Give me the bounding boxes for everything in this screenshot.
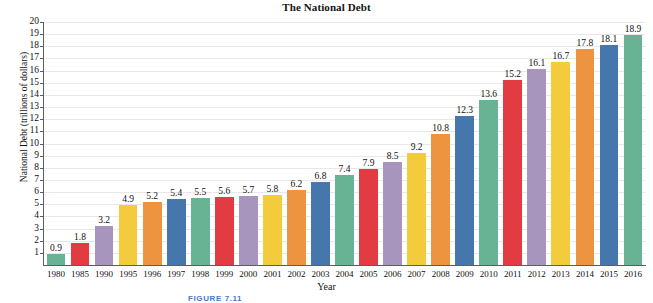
y-tick-label: 13 [9, 102, 39, 111]
x-axis-line [43, 265, 646, 266]
bar[interactable] [551, 62, 570, 265]
bar[interactable] [624, 35, 643, 265]
bar-slot: 17.82014 [573, 22, 597, 265]
bar-slot: 5.82001 [260, 22, 284, 265]
bar-slot: 18.12015 [597, 22, 621, 265]
y-tick-label: 8 [9, 163, 39, 172]
y-tick-label: 17 [9, 53, 39, 62]
bar-slot: 12.32009 [453, 22, 477, 265]
bar-slot: 5.61999 [212, 22, 236, 265]
y-tick-label: 1 [9, 248, 39, 257]
y-tick-label: 15 [9, 78, 39, 87]
y-tick-label: 6 [9, 187, 39, 196]
y-tick-label: 7 [9, 175, 39, 184]
x-tick-label: 2016 [615, 269, 651, 279]
bar[interactable] [287, 190, 306, 265]
bar-slot: 0.91980 [44, 22, 68, 265]
chart-title: The National Debt [0, 1, 653, 13]
bar-slot: 7.42004 [332, 22, 356, 265]
y-tick-label: 19 [9, 29, 39, 38]
bar[interactable] [479, 100, 498, 265]
bar[interactable] [527, 69, 546, 265]
bar-slot: 5.51998 [188, 22, 212, 265]
y-tick-label: 11 [9, 126, 39, 135]
bar[interactable] [119, 205, 138, 265]
bar-slot: 7.92005 [357, 22, 381, 265]
bar[interactable] [576, 49, 595, 265]
bar[interactable] [503, 80, 522, 265]
bar[interactable] [215, 197, 234, 265]
bar[interactable] [143, 202, 162, 265]
bar-slot: 6.22002 [284, 22, 308, 265]
bar-slot: 5.41997 [164, 22, 188, 265]
bar[interactable] [455, 116, 474, 265]
bar[interactable] [431, 134, 450, 265]
bar-slot: 10.82008 [429, 22, 453, 265]
y-tick-label: 9 [9, 151, 39, 160]
bar-slot: 6.82003 [308, 22, 332, 265]
bar-slot: 18.92016 [621, 22, 645, 265]
bar[interactable] [600, 45, 619, 265]
bar-slot: 5.21996 [140, 22, 164, 265]
bar[interactable] [263, 195, 282, 265]
bar[interactable] [71, 243, 90, 265]
y-tick-label: 14 [9, 90, 39, 99]
y-tick-label: 4 [9, 211, 39, 220]
bar[interactable] [335, 175, 354, 265]
figure-caption: FIGURE 7.11 [188, 294, 242, 303]
bar[interactable] [95, 226, 114, 265]
bar-slot: 13.62010 [477, 22, 501, 265]
bar[interactable] [239, 196, 258, 265]
bar-slot: 5.72000 [236, 22, 260, 265]
figure-container: The National Debt National Debt (trillio… [0, 0, 653, 303]
bar-value-label: 18.9 [613, 24, 653, 34]
bar[interactable] [383, 162, 402, 265]
bar-slot: 1.81985 [68, 22, 92, 265]
bar-slot: 3.21990 [92, 22, 116, 265]
y-tick-label: 16 [9, 66, 39, 75]
bar[interactable] [311, 182, 330, 265]
x-axis-title: Year [0, 281, 653, 292]
y-tick-label: 5 [9, 199, 39, 208]
y-tick-label: 18 [9, 41, 39, 50]
bar[interactable] [167, 199, 186, 265]
bar[interactable] [359, 169, 378, 265]
y-tick-label: 12 [9, 114, 39, 123]
bar[interactable] [407, 153, 426, 265]
bar[interactable] [191, 198, 210, 265]
bar-slot: 9.22007 [405, 22, 429, 265]
y-axis-tick-labels: 1234567891011121314151617181920 [8, 22, 39, 265]
y-tick-label: 20 [9, 17, 39, 26]
bar-slot: 16.72013 [549, 22, 573, 265]
plot-area: 0.919801.819853.219904.919955.219965.419… [44, 22, 645, 265]
bar[interactable] [47, 254, 66, 265]
y-tick-label: 2 [9, 236, 39, 245]
bar-slot: 4.91995 [116, 22, 140, 265]
y-tick-label: 10 [9, 139, 39, 148]
bar-series: 0.919801.819853.219904.919955.219965.419… [44, 22, 645, 265]
y-tick-label: 3 [9, 224, 39, 233]
